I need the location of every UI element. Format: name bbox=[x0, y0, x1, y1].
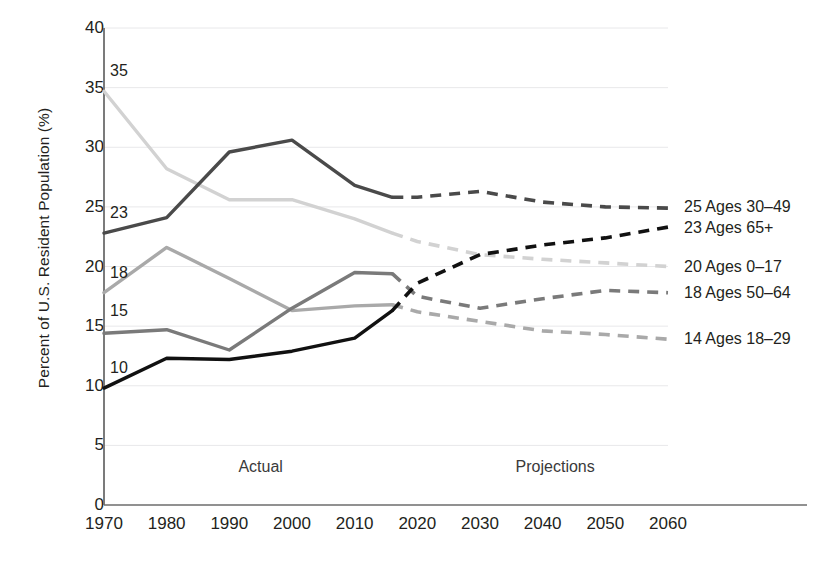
series-line-actual bbox=[104, 247, 392, 310]
series-legend-label: 25 Ages 30–49 bbox=[684, 198, 791, 216]
series-legend-label: 14 Ages 18–29 bbox=[684, 330, 791, 348]
x-tick-label: 1990 bbox=[194, 514, 264, 534]
series-line-actual bbox=[104, 91, 392, 233]
x-tick-label: 2040 bbox=[508, 514, 578, 534]
x-tick-label: 1970 bbox=[69, 514, 139, 534]
series-start-value-label: 23 bbox=[110, 204, 128, 222]
chart-root: Percent of U.S. Resident Population (%) … bbox=[0, 0, 827, 561]
x-tick-label: 2020 bbox=[382, 514, 452, 534]
x-axis-tick-labels: 1970198019902000201020202030204020502060 bbox=[0, 514, 827, 544]
phase-annotation: Actual bbox=[238, 458, 282, 476]
x-tick-label: 2030 bbox=[445, 514, 515, 534]
x-tick-label: 2000 bbox=[257, 514, 327, 534]
series-line-projection bbox=[392, 227, 668, 311]
series-line-actual bbox=[104, 311, 392, 389]
series-line-projection bbox=[392, 274, 668, 309]
x-tick-label: 2060 bbox=[633, 514, 703, 534]
series-line-actual bbox=[104, 140, 392, 233]
series-legend-label: 18 Ages 50–64 bbox=[684, 284, 791, 302]
series-start-value-label: 10 bbox=[110, 359, 128, 377]
x-tick-label: 2050 bbox=[570, 514, 640, 534]
series-line-projection bbox=[392, 233, 668, 266]
series-line-projection bbox=[392, 305, 668, 340]
series-legend-label: 23 Ages 65+ bbox=[684, 219, 773, 237]
series-start-value-label: 18 bbox=[110, 264, 128, 282]
series-line-projection bbox=[392, 191, 668, 208]
phase-annotation: Projections bbox=[516, 458, 595, 476]
x-tick-label: 1980 bbox=[132, 514, 202, 534]
series-legend-label: 20 Ages 0–17 bbox=[684, 258, 782, 276]
series-start-value-label: 15 bbox=[110, 302, 128, 320]
series-start-value-label: 35 bbox=[110, 62, 128, 80]
x-tick-label: 2010 bbox=[320, 514, 390, 534]
